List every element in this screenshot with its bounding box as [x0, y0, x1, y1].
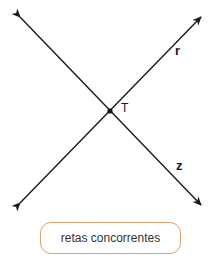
caption-box: retas concorrentes: [40, 222, 181, 254]
caption-text: retas concorrentes: [61, 231, 160, 245]
intersection-point-T: [107, 108, 112, 113]
diagram-canvas: T r z retas concorrentes: [0, 0, 218, 273]
point-label-T: T: [121, 102, 128, 114]
line-label-z: z: [176, 159, 183, 172]
line-label-r: r: [175, 44, 180, 57]
